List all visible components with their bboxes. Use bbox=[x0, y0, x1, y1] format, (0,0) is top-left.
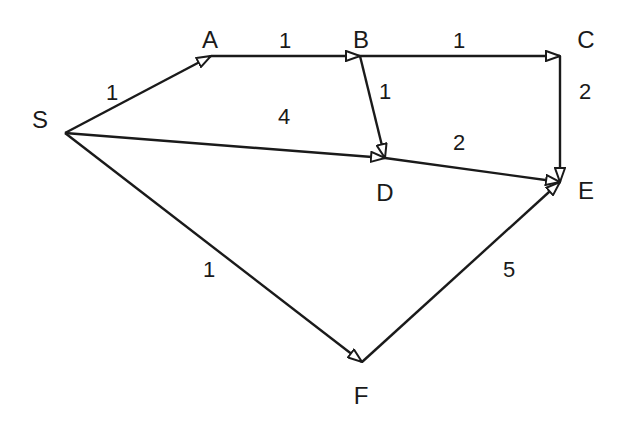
edge-weight-s-f: 1 bbox=[203, 257, 215, 282]
edge-weight-b-c: 1 bbox=[453, 28, 465, 53]
edge-s-f-arrow bbox=[65, 133, 362, 362]
edge-f-e-arrow bbox=[362, 182, 560, 362]
edge-weight-s-a: 1 bbox=[106, 80, 118, 105]
edge-weight-c-e: 2 bbox=[579, 79, 591, 104]
edge-s-a-arrow bbox=[65, 56, 211, 133]
edge-weight-f-e: 5 bbox=[503, 257, 515, 282]
edge-b-d-arrow bbox=[360, 56, 385, 158]
edge-weight-b-d: 1 bbox=[379, 79, 391, 104]
edges-layer bbox=[65, 56, 560, 362]
node-b-label: B bbox=[353, 26, 369, 53]
node-a-label: A bbox=[202, 26, 218, 53]
node-e-label: E bbox=[578, 177, 594, 204]
edge-weight-s-d: 4 bbox=[278, 104, 290, 129]
graph-diagram: 111142215 SABCDEF bbox=[0, 0, 629, 427]
graph-svg: 111142215 SABCDEF bbox=[0, 0, 629, 427]
node-s-label: S bbox=[32, 106, 48, 133]
edge-weight-d-e: 2 bbox=[453, 130, 465, 155]
edge-weight-a-b: 1 bbox=[279, 28, 291, 53]
edge-s-d-arrow bbox=[65, 133, 385, 158]
edge-d-e-arrow bbox=[385, 158, 560, 182]
node-c-label: C bbox=[577, 26, 594, 53]
node-d-label: D bbox=[376, 179, 393, 206]
node-f-label: F bbox=[354, 382, 369, 409]
